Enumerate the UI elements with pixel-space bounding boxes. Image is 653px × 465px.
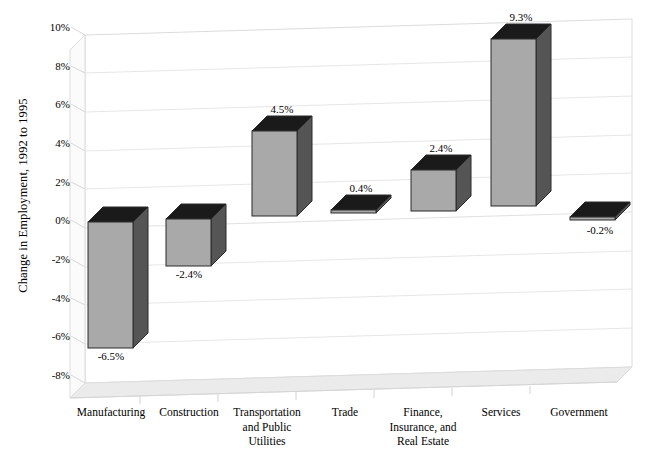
- data-label-manufacturing: -6.5%: [66, 350, 156, 362]
- data-label-trade: 0.4%: [316, 182, 406, 194]
- x-label-line: Insurance, and: [373, 420, 473, 435]
- y-tick-label: 10%: [26, 22, 70, 33]
- data-label-finance: 2.4%: [396, 142, 486, 154]
- bar-government: [570, 202, 630, 220]
- y-tick-label: -8%: [26, 370, 70, 381]
- bar-construction: [166, 204, 226, 266]
- x-label-line: Real Estate: [373, 434, 473, 449]
- x-label-line: Government: [529, 405, 629, 420]
- x-label-government: Government: [529, 405, 629, 420]
- data-label-government: -0.2%: [555, 224, 645, 236]
- data-label-construction: -2.4%: [144, 268, 234, 280]
- x-label-line: Utilities: [217, 434, 317, 449]
- y-tick-label: 4%: [26, 138, 70, 149]
- y-tick-label: -2%: [26, 254, 70, 265]
- y-tick-label: -4%: [26, 293, 70, 304]
- y-tick-label: 2%: [26, 177, 70, 188]
- y-axis-ticks: 10% 8% 6% 4% 2% 0% -2% -4% -6% -8%: [26, 0, 70, 465]
- y-tick-label: -6%: [26, 331, 70, 342]
- y-tick-label: 0%: [26, 215, 70, 226]
- y-tick-label: 8%: [26, 61, 70, 72]
- bar-trade: [331, 195, 391, 213]
- chart-container: Change in Employment, 1992 to 1995 10% 8…: [0, 0, 653, 465]
- bar-services: [491, 24, 551, 206]
- data-label-transportation: 4.5%: [237, 103, 327, 115]
- x-axis-labels: Manufacturing Construction Transportatio…: [0, 405, 653, 465]
- data-label-services: 9.3%: [476, 11, 566, 23]
- y-tick-label: 6%: [26, 99, 70, 110]
- bar-finance: [411, 155, 471, 211]
- x-label-line: and Public: [217, 420, 317, 435]
- bar-manufacturing: [88, 207, 148, 348]
- bar-transportation: [252, 116, 312, 216]
